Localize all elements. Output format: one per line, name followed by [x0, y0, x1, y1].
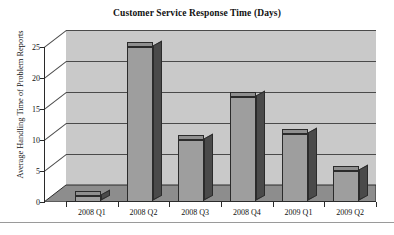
bar[interactable] [178, 140, 204, 202]
bar-side-face [359, 165, 368, 201]
y-axis-tick-mark [40, 171, 45, 172]
plot-area: 0510152025 [44, 30, 376, 202]
y-axis-line [44, 47, 45, 202]
bar[interactable] [230, 97, 256, 202]
bar-front-face [230, 97, 256, 202]
x-axis-tick-label: 2008 Q4 [233, 208, 261, 217]
y-axis-tick-mark [40, 109, 45, 110]
x-axis-tick-label: 2008 Q1 [78, 208, 106, 217]
gridline [66, 154, 376, 155]
x-axis-tick-label: 2008 Q3 [181, 208, 209, 217]
bar[interactable] [333, 171, 359, 202]
x-axis-tick-mark [324, 202, 325, 207]
bottom-divider [0, 222, 394, 223]
x-axis-tick-mark [66, 202, 67, 207]
bar-front-face [178, 140, 204, 202]
x-axis-tick-label: 2009 Q2 [336, 208, 364, 217]
gridline-depth-edge [44, 61, 67, 79]
y-axis-tick-label: 20 [18, 74, 40, 83]
bar-side-face [256, 90, 265, 200]
gridline [66, 30, 376, 31]
bar-front-face [282, 134, 308, 202]
x-axis-tick-mark [221, 202, 222, 207]
chart-scene: 0510152025 [44, 30, 376, 202]
y-axis-tick-label: 5 [18, 167, 40, 176]
y-axis-tick-label: 15 [18, 105, 40, 114]
y-axis-tick-label: 10 [18, 136, 40, 145]
back-wall [66, 30, 376, 185]
gridline-depth-edge [44, 123, 67, 141]
gridline [66, 123, 376, 124]
x-axis-tick-mark [376, 202, 377, 207]
gridline-depth-edge [44, 30, 67, 48]
bar-front-face [333, 171, 359, 202]
y-axis-tick-label: 0 [18, 198, 40, 207]
gridline-depth-edge [44, 92, 67, 110]
gridline-depth-edge [44, 154, 67, 172]
bar[interactable] [282, 134, 308, 202]
bar-side-face [153, 41, 162, 201]
x-axis-tick-label: 2009 Q1 [285, 208, 313, 217]
y-axis-tick-mark [40, 140, 45, 141]
x-axis-tick-mark [273, 202, 274, 207]
y-axis-tick-mark [40, 78, 45, 79]
gridline [66, 92, 376, 93]
bar-side-face [308, 127, 317, 200]
gridline [66, 61, 376, 62]
x-axis-tick-mark [169, 202, 170, 207]
bar-front-face [127, 47, 153, 202]
bar-side-face [204, 134, 213, 201]
x-axis-labels: 2008 Q12008 Q22008 Q32008 Q42009 Q12009 … [44, 202, 376, 224]
chart-page: Customer Service Response Time (Days) Av… [0, 0, 394, 235]
x-axis-tick-label: 2008 Q2 [130, 208, 158, 217]
y-axis-tick-mark [40, 47, 45, 48]
chart-title: Customer Service Response Time (Days) [0, 8, 394, 18]
x-axis-tick-mark [118, 202, 119, 207]
y-axis-tick-label: 25 [18, 43, 40, 52]
bar[interactable] [127, 47, 153, 202]
